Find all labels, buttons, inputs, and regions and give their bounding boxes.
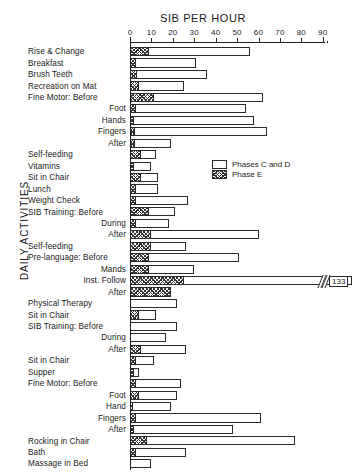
category-label: During (28, 333, 129, 342)
bar-phase-e (130, 230, 151, 239)
x-tick-70 (280, 38, 281, 42)
bar-phases-c-and-d (130, 425, 233, 434)
category-label: SIB Training: Before (28, 208, 128, 217)
category-label: Inst. Follow (28, 276, 129, 285)
x-tick-50 (237, 38, 238, 42)
bar-phase-e (130, 173, 141, 182)
x-tick-30 (194, 38, 195, 42)
bar-phases-c-and-d (130, 413, 261, 422)
category-label: Recreation on Mat (28, 82, 128, 91)
category-label: Physical Therapy (28, 299, 128, 308)
category-label: After (28, 425, 129, 434)
x-tick-80 (301, 38, 302, 42)
bar-phases-c-and-d (130, 70, 207, 79)
x-axis-tail-mark (327, 41, 328, 43)
bar-phase-e (130, 253, 149, 262)
bar-phase-e (130, 47, 149, 56)
bar-phases-c-and-d (130, 196, 188, 205)
bar-phase-e (130, 345, 141, 354)
bar-phases-c-and-d (130, 139, 171, 148)
category-label: Sit in Chair (28, 356, 128, 365)
bar-phase-e (130, 287, 171, 296)
category-label: Hands (28, 116, 129, 125)
category-label: After (28, 288, 129, 297)
category-label: Vitamins (28, 162, 128, 171)
category-label: Massage in Bed (28, 459, 128, 468)
bar-phases-c-and-d (130, 127, 267, 136)
plot-area: Rise & ChangeBreakfastBrush TeethRecreat… (0, 0, 361, 475)
bar-phase-e (130, 150, 141, 159)
bar-phase-e (130, 436, 147, 445)
bar-phases-c-and-d (130, 459, 151, 468)
category-label: Pre-language: Before (28, 253, 128, 262)
chart-legend: Phases C and D Phase E (212, 160, 332, 184)
bar-phase-e (130, 265, 149, 274)
category-label: Brush Teeth (28, 70, 128, 79)
bar-phase-e (130, 242, 151, 251)
bar-value-callout: 133 (329, 276, 348, 287)
category-label: Lunch (28, 185, 128, 194)
category-label: Fingers (28, 127, 129, 136)
bar-phases-c-and-d (130, 299, 177, 308)
bar-phases-c-and-d (130, 448, 186, 457)
category-label: Rocking in Chair (28, 437, 128, 446)
category-label: Sit in Chair (28, 311, 128, 320)
category-label: Fine Motor: Before (28, 93, 128, 102)
bar-phases-c-and-d (130, 333, 166, 342)
x-axis-line (130, 42, 325, 43)
x-tick-20 (173, 38, 174, 42)
category-label: After (28, 345, 129, 354)
bar-phases-c-and-d (130, 58, 196, 67)
category-label: Rise & Change (28, 47, 128, 56)
bar-phase-e (130, 207, 149, 216)
bar-phase-e (130, 81, 139, 90)
y-axis-baseline (130, 42, 131, 470)
legend-label-phase-e: Phase E (232, 170, 262, 179)
bar-phases-c-and-d (130, 402, 171, 411)
category-label: Mands (28, 265, 129, 274)
bar-phases-c-and-d (130, 379, 181, 388)
bar-phases-c-and-d (130, 116, 254, 125)
category-label: Bath (28, 448, 128, 457)
category-label: Supper (28, 368, 128, 377)
category-label: After (28, 230, 129, 239)
x-tick-10 (151, 38, 152, 42)
category-label: Self-feeding (28, 242, 128, 251)
x-axis-endcap-90 (323, 37, 324, 43)
category-label: Foot (28, 104, 129, 113)
x-tick-60 (259, 38, 260, 42)
category-label: After (28, 139, 129, 148)
bar-phase-e (130, 391, 139, 400)
bar-phases-c-and-d (130, 322, 177, 331)
legend-swatch-phase-e (212, 170, 227, 179)
legend-swatch-phases-c-d (212, 160, 227, 169)
bar-phase-e (130, 276, 184, 285)
category-label: During (28, 219, 129, 228)
category-label: Breakfast (28, 59, 128, 68)
bar-phases-c-and-d (130, 104, 246, 113)
category-label: Foot (28, 391, 129, 400)
category-label: Sit in Chair (28, 173, 128, 182)
bar-phase-e (130, 70, 137, 79)
x-tick-40 (216, 38, 217, 42)
sib-per-hour-chart: SIB PER HOUR 0102030405060708090 DAILY A… (0, 0, 361, 475)
category-label: Self-feeding (28, 150, 128, 159)
category-label: Fingers (28, 414, 129, 423)
category-label: Fine Motor: Before (28, 379, 128, 388)
legend-label-phases-c-d: Phases C and D (232, 160, 290, 169)
bar-phases-c-and-d (130, 436, 295, 445)
bar-phase-e (130, 93, 154, 102)
category-label: Hand (28, 402, 129, 411)
category-label: SIB Training: Before (28, 322, 128, 331)
bar-phase-e (130, 310, 139, 319)
category-label: Weight Check (28, 196, 128, 205)
